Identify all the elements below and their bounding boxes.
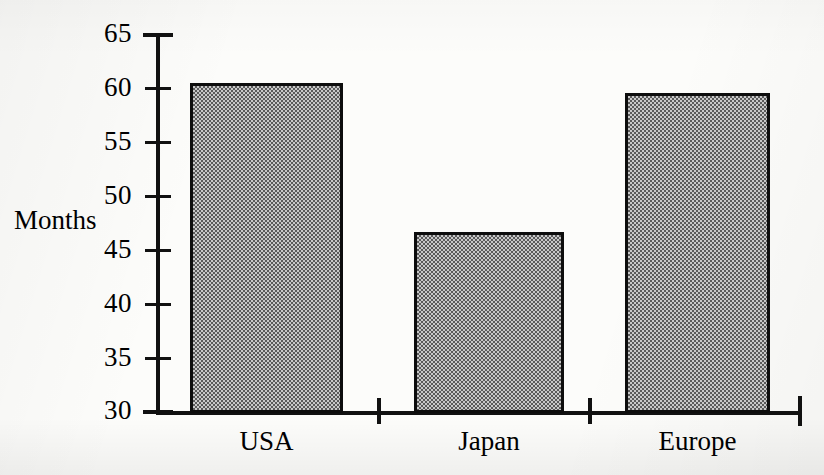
y-axis-label-row-30: 30 — [86, 397, 132, 424]
x-axis-label-japan: Japan — [414, 426, 564, 456]
y-axis-tick-label-55: 55 — [86, 128, 132, 155]
y-axis-tick-60 — [145, 87, 171, 90]
bar-europe — [625, 93, 770, 413]
y-axis-label-row-60: 60 — [86, 74, 132, 101]
bar-japan — [414, 232, 564, 413]
x-axis-tick-end — [798, 396, 802, 426]
y-axis-tick-35 — [145, 357, 171, 360]
bar-chart-figure: Months 65 60 55 50 45 40 35 30 USA Jap — [0, 0, 824, 475]
y-axis-label-row-55: 55 — [86, 128, 132, 155]
y-axis-tick-65 — [143, 33, 173, 37]
y-axis-label-row-40: 40 — [86, 290, 132, 317]
y-axis-tick-55 — [145, 141, 171, 144]
y-axis-tick-label-35: 35 — [86, 344, 132, 371]
y-axis-title: Months — [14, 206, 97, 234]
y-axis-tick-label-60: 60 — [86, 74, 132, 101]
x-axis-label-usa: USA — [190, 426, 343, 456]
y-axis-tick-label-50: 50 — [86, 182, 132, 209]
y-axis-tick-label-45: 45 — [86, 236, 132, 263]
y-axis-tick-50 — [145, 195, 171, 198]
y-axis-label-row-50: 50 — [86, 182, 132, 209]
y-axis-tick-45 — [145, 249, 171, 252]
bar-usa — [190, 83, 343, 413]
x-axis-tick-usa-japan — [377, 398, 381, 424]
y-axis-label-row-65: 65 — [86, 20, 132, 47]
y-axis-tick-30 — [143, 410, 173, 414]
y-axis-tick-40 — [145, 303, 171, 306]
y-axis-label-row-35: 35 — [86, 344, 132, 371]
y-axis-tick-label-40: 40 — [86, 290, 132, 317]
x-axis-label-europe: Europe — [625, 426, 770, 456]
y-axis-tick-label-30: 30 — [86, 397, 132, 424]
y-axis-tick-label-65: 65 — [86, 20, 132, 47]
x-axis-tick-japan-europe — [588, 398, 592, 424]
y-axis-label-row-45: 45 — [86, 236, 132, 263]
